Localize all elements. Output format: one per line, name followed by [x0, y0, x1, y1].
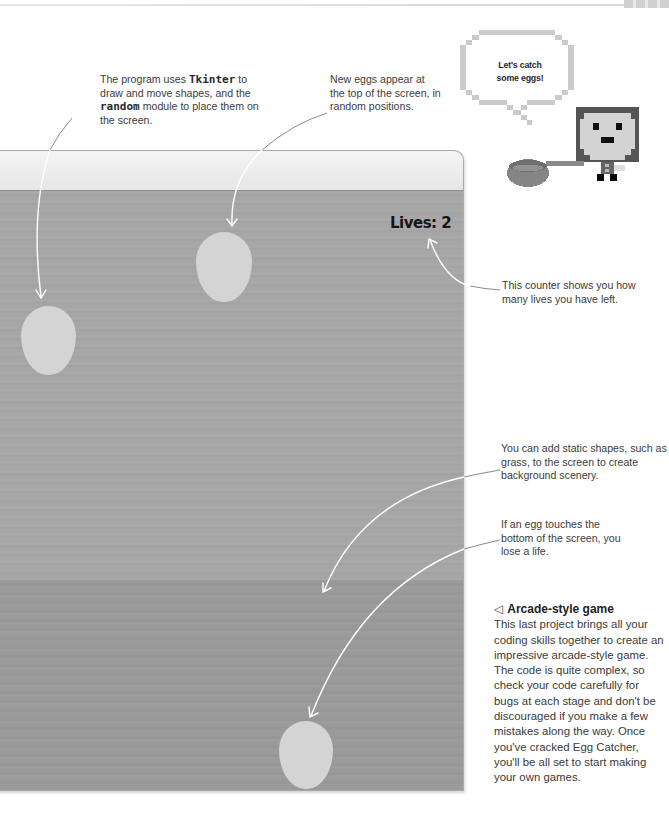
window-titlebar — [0, 151, 463, 191]
speech-bubble-text: Let's catch some eggs! — [480, 59, 560, 85]
caption-arcade-style-game: ◁Arcade-style game This last project bri… — [494, 602, 666, 786]
speech-line-1: Let's catch — [480, 59, 560, 72]
leader-line-static — [464, 470, 500, 477]
page-corner-tab — [624, 0, 669, 8]
pointer-left-icon: ◁ — [494, 602, 503, 616]
caption-title: ◁Arcade-style game — [494, 602, 666, 617]
leader-line-lives — [470, 286, 500, 290]
caption-body: This last project brings all your coding… — [494, 618, 664, 783]
game-canvas-grass — [0, 580, 463, 790]
annotation-lives-counter: This counter shows you how many lives yo… — [502, 279, 642, 306]
leader-line-tkinter — [50, 118, 72, 150]
speech-line-2: some eggs! — [480, 72, 560, 85]
annotation-static-shapes: You can add static shapes, such as grass… — [501, 442, 667, 483]
frying-pan-icon — [506, 155, 586, 191]
annotation-text: The program uses — [100, 73, 189, 85]
annotation-tkinter-random: The program uses Tkinter to draw and mov… — [100, 73, 268, 127]
lives-counter: Lives: 2 — [390, 214, 451, 232]
annotation-lose-life: If an egg touches the bottom of the scre… — [501, 518, 621, 559]
page-top-rule — [0, 4, 640, 6]
code-tkinter: Tkinter — [189, 73, 235, 86]
leader-line-new-eggs — [262, 113, 327, 150]
code-random: random — [100, 100, 140, 113]
game-window: Lives: 2 — [0, 150, 464, 791]
annotation-new-eggs: New eggs appear at the top of the screen… — [330, 73, 442, 114]
leader-line-lose-life — [464, 540, 500, 549]
caption-title-text: Arcade-style game — [507, 602, 614, 616]
